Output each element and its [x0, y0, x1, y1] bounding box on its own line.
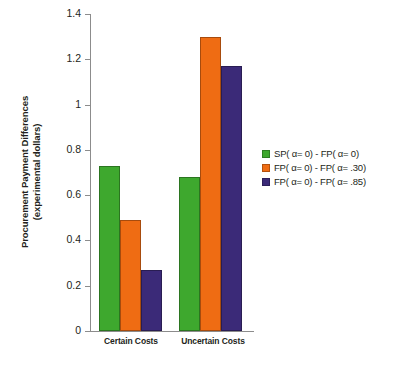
- legend-label: SP( α= 0) - FP( α= 0): [274, 148, 359, 159]
- y-axis-title-line-2: (experimental dollars): [31, 57, 43, 287]
- y-axis-tick-label: 1.2: [37, 53, 81, 64]
- bar: [221, 66, 242, 331]
- y-axis-tick: [85, 331, 90, 332]
- y-axis-title-line-1: Procurement Payment Differences: [19, 96, 30, 248]
- bar-chart: Procurement Payment Differences (experim…: [0, 0, 419, 366]
- x-axis-line: [90, 331, 254, 332]
- y-axis-tick: [85, 14, 90, 15]
- legend-label: FP( α= 0) - FP( α= .85): [274, 176, 366, 187]
- y-axis-tick: [85, 286, 90, 287]
- legend-swatch-icon: [262, 150, 270, 158]
- legend-swatch-icon: [262, 178, 270, 186]
- y-axis-tick: [85, 59, 90, 60]
- legend-item: SP( α= 0) - FP( α= 0): [262, 147, 418, 160]
- bar: [120, 220, 141, 331]
- y-axis-tick-label: 0: [37, 325, 81, 336]
- legend-item: FP( α= 0) - FP( α= .85): [262, 175, 418, 188]
- x-axis-category-label: Certain Costs: [90, 336, 172, 346]
- y-axis-tick: [85, 195, 90, 196]
- bar: [179, 177, 200, 331]
- legend-label: FP( α= 0) - FP( α= .30): [274, 162, 366, 173]
- legend: SP( α= 0) - FP( α= 0)FP( α= 0) - FP( α= …: [262, 147, 418, 189]
- bar: [141, 270, 162, 331]
- plot-area: 00.20.40.60.811.21.4 Certain CostsUncert…: [90, 14, 254, 331]
- y-axis-tick: [85, 105, 90, 106]
- y-axis-tick-label: 0.4: [37, 234, 81, 245]
- y-axis-tick-label: 0.2: [37, 280, 81, 291]
- legend-swatch-icon: [262, 164, 270, 172]
- y-axis-tick: [85, 150, 90, 151]
- y-axis-tick-label: 0.8: [37, 144, 81, 155]
- x-axis-category-label: Uncertain Costs: [172, 336, 254, 346]
- y-axis-tick-label: 1.4: [37, 8, 81, 19]
- y-axis-tick-label: 0.6: [37, 189, 81, 200]
- legend-item: FP( α= 0) - FP( α= .30): [262, 161, 418, 174]
- y-axis-tick-label: 1: [37, 99, 81, 110]
- bar: [200, 37, 221, 331]
- y-axis-title: Procurement Payment Differences (experim…: [19, 57, 43, 287]
- y-axis-tick: [85, 240, 90, 241]
- bar-series-group: [91, 14, 254, 331]
- bar: [99, 166, 120, 331]
